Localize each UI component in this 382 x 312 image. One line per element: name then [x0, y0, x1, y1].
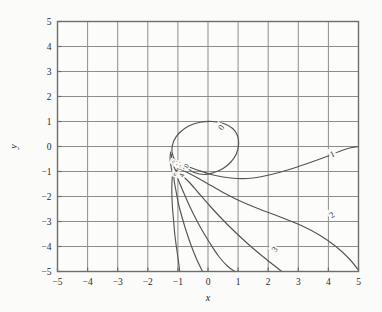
- y-tick-label: 2: [47, 92, 52, 102]
- x-tick-label: 3: [296, 277, 301, 287]
- y-tick-label: −2: [41, 192, 51, 202]
- y-tick-label: −5: [41, 267, 51, 277]
- x-tick-label: 1: [236, 277, 241, 287]
- y-tick-label: 1: [47, 117, 52, 127]
- y-tick-label: 3: [47, 67, 52, 77]
- x-tick-label: 4: [326, 277, 331, 287]
- y-tick-label: −1: [41, 167, 51, 177]
- x-tick-label: −4: [83, 277, 93, 287]
- y-tick-label: 0: [47, 142, 52, 152]
- x-tick-label: −2: [143, 277, 153, 287]
- x-tick-label: −3: [113, 277, 123, 287]
- x-tick-label: 0: [206, 277, 211, 287]
- contour-plot-figure: −5−4−3−2−1012345 543210−1−2−3−4−5 012331…: [0, 0, 382, 312]
- contour-plot-canvas: −5−4−3−2−1012345 543210−1−2−3−4−5 012331…: [0, 0, 382, 312]
- y-axis-title: y: [8, 144, 19, 150]
- x-tick-label: 5: [356, 277, 361, 287]
- y-tick-label: −3: [41, 217, 51, 227]
- y-tick-label: 5: [47, 17, 52, 27]
- y-tick-label: 4: [47, 42, 52, 52]
- x-tick-label: 2: [266, 277, 271, 287]
- x-axis-title: x: [205, 292, 211, 303]
- x-tick-label: −1: [173, 277, 183, 287]
- y-tick-label: −4: [41, 242, 51, 252]
- x-tick-label: −5: [52, 277, 62, 287]
